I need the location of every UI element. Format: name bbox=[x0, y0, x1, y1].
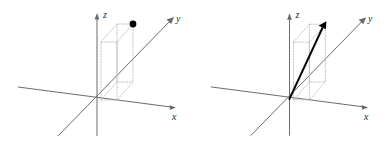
x-axis-group: x bbox=[211, 87, 369, 122]
x-axis-label: x bbox=[363, 111, 369, 122]
vector-diagram-svg: z x y bbox=[193, 0, 386, 143]
panel-point-diagram: z x y bbox=[0, 0, 193, 143]
y-axis-label: y bbox=[175, 13, 181, 24]
z-axis-arrowhead bbox=[287, 13, 292, 19]
position-vector-shaft bbox=[290, 28, 323, 99]
projection-guide-box bbox=[293, 24, 325, 100]
y-axis-group: y bbox=[251, 13, 373, 135]
y-axis-line bbox=[58, 21, 170, 136]
x-axis-arrowhead bbox=[361, 105, 368, 110]
figure-root: z x y bbox=[0, 0, 387, 143]
position-vector bbox=[290, 21, 327, 99]
z-axis-label: z bbox=[102, 9, 107, 20]
y-axis-group: y bbox=[58, 13, 181, 136]
x-axis-arrowhead bbox=[169, 105, 176, 110]
y-axis-line bbox=[251, 21, 362, 135]
x-axis-label: x bbox=[171, 111, 177, 122]
panel-vector-diagram: z x y bbox=[193, 0, 386, 143]
x-axis-line bbox=[18, 87, 171, 107]
y-axis-label: y bbox=[367, 13, 373, 24]
projection-guide-box bbox=[101, 24, 133, 100]
z-axis-label: z bbox=[294, 9, 299, 20]
point-marker-dot bbox=[130, 21, 137, 28]
z-axis-arrowhead bbox=[95, 13, 100, 20]
point-diagram-svg: z x y bbox=[0, 0, 193, 143]
x-axis-line bbox=[211, 87, 363, 107]
